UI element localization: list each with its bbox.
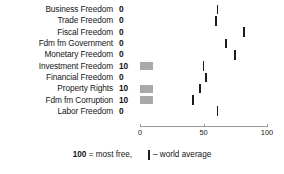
legend-scale-note: 100 = most free, (73, 150, 132, 160)
row-plot-area (140, 72, 267, 83)
x-axis: 050100 (140, 126, 267, 127)
chart-legend: 100 = most free, – world average (0, 150, 284, 160)
row-category-label: Trade Freedom (0, 16, 113, 25)
world-average-marker (215, 16, 217, 26)
chart-row: Trade Freedom0 (0, 15, 284, 26)
world-average-marker-icon (148, 150, 150, 160)
row-plot-area (140, 94, 267, 105)
chart-row: Investment Freedom10 (0, 60, 284, 71)
row-category-label: Labor Freedom (0, 107, 113, 116)
row-score-value: 0 (113, 107, 140, 116)
x-axis-tick-label: 100 (261, 129, 273, 137)
world-average-marker (243, 27, 245, 37)
row-category-label: Monetary Freedom (0, 50, 113, 59)
row-plot-area (140, 49, 267, 60)
world-average-marker (199, 84, 201, 94)
x-axis-tick-label: 0 (138, 129, 142, 137)
x-axis-tick (204, 124, 205, 128)
legend-average-label: – world average (153, 150, 211, 160)
row-category-label: Business Freedom (0, 5, 113, 14)
chart-row: Fdm fm Corruption10 (0, 94, 284, 105)
row-plot-area (140, 83, 267, 94)
world-average-marker (205, 73, 207, 83)
row-category-label: Fdm fm Corruption (0, 96, 113, 105)
row-plot-area (140, 106, 267, 117)
chart-row: Fdm fm Government0 (0, 38, 284, 49)
freedom-index-chart: Business Freedom0Trade Freedom0Fiscal Fr… (0, 0, 284, 174)
row-category-label: Property Rights (0, 84, 113, 93)
row-score-value: 10 (113, 62, 140, 71)
chart-row: Business Freedom0 (0, 4, 284, 15)
row-plot-area (140, 15, 267, 26)
chart-row: Financial Freedom0 (0, 72, 284, 83)
world-average-marker (217, 5, 219, 15)
x-axis-tick-label: 50 (199, 129, 207, 137)
legend-scale-value: 100 (73, 150, 87, 159)
legend-scale-text: = most free, (86, 150, 132, 159)
x-axis-tick (140, 124, 141, 128)
row-score-value: 0 (113, 39, 140, 48)
row-category-label: Financial Freedom (0, 73, 113, 82)
world-average-marker (192, 95, 194, 105)
row-score-value: 10 (113, 96, 140, 105)
world-average-marker (203, 61, 205, 71)
row-category-label: Fiscal Freedom (0, 28, 113, 37)
row-plot-area (140, 27, 267, 38)
row-score-value: 10 (113, 84, 140, 93)
x-axis-tick (267, 124, 268, 128)
row-plot-area (140, 60, 267, 71)
score-bar (140, 96, 153, 104)
chart-row: Property Rights10 (0, 83, 284, 94)
chart-row: Monetary Freedom0 (0, 49, 284, 60)
row-plot-area (140, 4, 267, 15)
row-score-value: 0 (113, 28, 140, 37)
row-score-value: 0 (113, 50, 140, 59)
chart-row: Labor Freedom0 (0, 106, 284, 117)
chart-row: Fiscal Freedom0 (0, 27, 284, 38)
chart-rows: Business Freedom0Trade Freedom0Fiscal Fr… (0, 4, 284, 117)
score-bar (140, 85, 153, 93)
world-average-marker (225, 39, 227, 49)
row-score-value: 0 (113, 73, 140, 82)
row-category-label: Fdm fm Government (0, 39, 113, 48)
row-category-label: Investment Freedom (0, 62, 113, 71)
world-average-marker (217, 106, 219, 116)
row-score-value: 0 (113, 5, 140, 14)
score-bar (140, 62, 153, 70)
row-score-value: 0 (113, 16, 140, 25)
row-plot-area (140, 38, 267, 49)
world-average-marker (234, 50, 236, 60)
